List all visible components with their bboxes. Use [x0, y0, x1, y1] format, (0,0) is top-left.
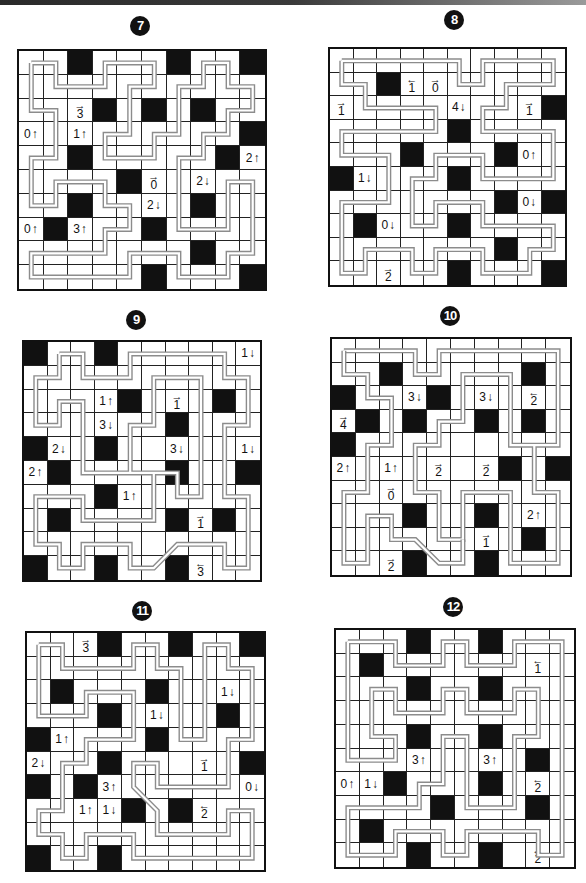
grid-cell[interactable] — [448, 73, 472, 97]
grid-cell[interactable] — [189, 342, 213, 366]
grid-cell[interactable] — [122, 823, 146, 847]
grid-cell[interactable] — [122, 752, 146, 776]
grid-cell[interactable] — [455, 820, 479, 844]
grid-cell[interactable] — [401, 49, 425, 73]
grid-cell[interactable] — [542, 167, 566, 191]
grid-cell[interactable] — [191, 218, 216, 242]
grid-cell[interactable] — [213, 556, 237, 580]
grid-cell[interactable] — [217, 799, 241, 823]
grid-cell[interactable] — [546, 363, 570, 387]
grid-cell[interactable] — [503, 701, 527, 725]
grid-cell[interactable] — [354, 96, 378, 120]
grid-cell[interactable] — [216, 170, 241, 194]
grid-cell[interactable] — [424, 191, 448, 215]
grid-cell[interactable] — [380, 433, 404, 457]
grid-cell[interactable] — [451, 363, 475, 387]
grid-cell[interactable] — [213, 342, 237, 366]
grid-cell[interactable] — [424, 143, 448, 167]
grid-cell[interactable] — [122, 680, 146, 704]
grid-cell[interactable] — [518, 238, 542, 262]
grid-cell[interactable] — [27, 657, 51, 681]
grid-cell[interactable] — [117, 99, 142, 123]
grid-cell[interactable] — [448, 191, 472, 215]
grid-cell[interactable] — [44, 265, 69, 289]
grid-cell[interactable] — [240, 75, 265, 99]
grid-cell[interactable] — [122, 775, 146, 799]
grid-cell[interactable] — [336, 749, 360, 773]
grid-cell[interactable] — [191, 146, 216, 170]
grid-cell[interactable] — [479, 796, 503, 820]
grid-cell[interactable] — [377, 191, 401, 215]
grid-cell[interactable] — [217, 823, 241, 847]
grid-cell[interactable] — [332, 339, 356, 363]
grid-cell[interactable] — [360, 630, 384, 654]
grid-cell[interactable] — [503, 630, 527, 654]
grid-cell[interactable] — [455, 630, 479, 654]
grid-cell[interactable] — [71, 509, 95, 533]
grid-cell[interactable] — [169, 752, 193, 776]
grid-cell[interactable] — [117, 51, 142, 75]
grid-cell[interactable] — [216, 265, 241, 289]
grid-cell[interactable] — [169, 823, 193, 847]
grid-cell[interactable] — [427, 363, 451, 387]
grid-cell[interactable] — [384, 701, 408, 725]
grid-cell[interactable] — [167, 146, 192, 170]
grid-cell[interactable] — [427, 339, 451, 363]
grid-cell[interactable] — [169, 846, 193, 870]
grid-cell[interactable] — [451, 410, 475, 434]
grid-cell[interactable] — [44, 170, 69, 194]
grid-cell[interactable] — [27, 823, 51, 847]
grid-cell[interactable] — [451, 433, 475, 457]
grid-cell[interactable] — [240, 846, 264, 870]
grid-cell[interactable] — [122, 633, 146, 657]
grid-cell[interactable] — [44, 75, 69, 99]
grid-cell[interactable] — [93, 194, 118, 218]
grid-cell[interactable] — [354, 261, 378, 285]
grid-cell[interactable] — [189, 437, 213, 461]
grid-cell[interactable] — [403, 528, 427, 552]
grid-cell[interactable] — [546, 481, 570, 505]
grid-cell[interactable] — [240, 194, 265, 218]
grid-cell[interactable] — [354, 49, 378, 73]
grid-cell[interactable] — [336, 654, 360, 678]
grid-cell[interactable] — [518, 261, 542, 285]
grid-cell[interactable] — [407, 772, 431, 796]
grid-cell[interactable] — [27, 633, 51, 657]
grid-cell[interactable] — [401, 96, 425, 120]
grid-cell[interactable] — [380, 410, 404, 434]
grid-cell[interactable] — [471, 167, 495, 191]
grid-cell[interactable] — [424, 120, 448, 144]
grid-cell[interactable] — [332, 551, 356, 575]
grid-cell[interactable] — [71, 485, 95, 509]
grid-cell[interactable] — [117, 265, 142, 289]
grid-cell[interactable] — [142, 461, 166, 485]
grid-cell[interactable] — [191, 51, 216, 75]
grid-cell[interactable] — [522, 457, 546, 481]
grid-cell[interactable] — [19, 170, 44, 194]
grid-cell[interactable] — [384, 796, 408, 820]
grid-cell[interactable] — [236, 556, 260, 580]
grid-cell[interactable] — [74, 657, 98, 681]
grid-cell[interactable] — [518, 167, 542, 191]
grid-cell[interactable] — [213, 485, 237, 509]
grid-cell[interactable] — [93, 170, 118, 194]
grid-cell[interactable] — [167, 265, 192, 289]
grid-cell[interactable] — [522, 433, 546, 457]
grid-cell[interactable] — [142, 122, 167, 146]
grid-cell[interactable] — [424, 238, 448, 262]
grid-cell[interactable] — [193, 823, 217, 847]
grid-cell[interactable] — [451, 339, 475, 363]
grid-cell[interactable] — [503, 796, 527, 820]
grid-cell[interactable] — [542, 238, 566, 262]
grid-cell[interactable] — [146, 846, 170, 870]
grid-cell[interactable] — [169, 775, 193, 799]
grid-cell[interactable] — [44, 51, 69, 75]
grid-cell[interactable] — [95, 461, 119, 485]
grid-cell[interactable] — [332, 528, 356, 552]
grid-cell[interactable] — [401, 167, 425, 191]
grid-cell[interactable] — [503, 843, 527, 867]
grid-cell[interactable] — [503, 749, 527, 773]
grid-cell[interactable] — [526, 820, 550, 844]
grid-cell[interactable] — [51, 657, 75, 681]
grid-cell[interactable] — [118, 437, 142, 461]
